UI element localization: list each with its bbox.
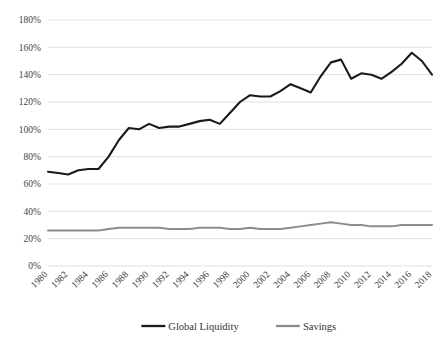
x-axis-tick-label: 2012	[352, 269, 373, 290]
x-axis-tick-label: 1990	[130, 269, 151, 290]
y-axis-tick-label: 20%	[24, 234, 42, 244]
y-axis-tick-label: 140%	[19, 70, 41, 80]
y-axis-labels-group: 0%20%40%60%80%100%120%140%160%180%	[19, 15, 41, 271]
series-line-global-liquidity	[48, 53, 432, 175]
x-axis-tick-label: 2016	[393, 269, 414, 290]
legend-label-global-liquidity: Global Liquidity	[168, 321, 239, 332]
x-axis-tick-label: 1986	[90, 269, 111, 290]
x-axis-tick-label: 2018	[413, 269, 434, 290]
x-axis-labels-group: 1980198219841986198819901992199419961998…	[29, 269, 434, 290]
y-axis-tick-label: 60%	[24, 179, 42, 189]
y-axis-tick-label: 100%	[19, 125, 41, 135]
x-axis-tick-label: 1998	[211, 269, 232, 290]
y-axis-tick-label: 180%	[19, 15, 41, 25]
x-axis-tick-label: 1996	[191, 269, 212, 290]
x-axis-tick-label: 2002	[251, 269, 272, 290]
y-axis-tick-label: 0%	[28, 261, 41, 271]
x-axis-tick-label: 2006	[292, 269, 313, 290]
x-axis-tick-label: 1984	[69, 269, 90, 290]
chart-legend: Global LiquiditySavings	[141, 321, 336, 332]
series-line-savings	[48, 222, 432, 230]
data-series-group	[48, 53, 432, 231]
x-axis-tick-label: 1992	[150, 269, 171, 290]
x-axis-tick-label: 2004	[271, 269, 292, 290]
x-axis-tick-label: 1982	[49, 269, 70, 290]
chart-canvas: 0%20%40%60%80%100%120%140%160%180% 19801…	[0, 0, 447, 344]
y-axis-tick-label: 40%	[24, 207, 42, 217]
x-axis-tick-label: 2008	[312, 269, 333, 290]
x-axis-tick-label: 2014	[372, 269, 393, 290]
x-axis-tick-label: 1980	[29, 269, 50, 290]
y-axis-tick-label: 80%	[24, 152, 42, 162]
legend-label-savings: Savings	[303, 321, 336, 332]
x-axis-tick-label: 2000	[231, 269, 252, 290]
x-axis-tick-label: 2010	[332, 269, 353, 290]
x-axis-tick-label: 1994	[170, 269, 191, 290]
y-axis-tick-label: 120%	[19, 97, 41, 107]
y-axis-tick-label: 160%	[19, 43, 41, 53]
line-chart: 0%20%40%60%80%100%120%140%160%180% 19801…	[0, 0, 447, 344]
x-axis-tick-label: 1988	[110, 269, 131, 290]
